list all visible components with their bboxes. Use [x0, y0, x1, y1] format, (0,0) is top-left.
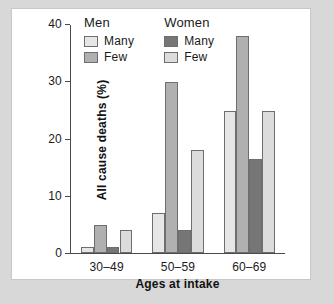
y-tick: 0: [70, 253, 71, 254]
y-tick-label: 0: [55, 246, 62, 260]
bar: [81, 247, 94, 253]
y-tick-mark: [65, 196, 70, 197]
y-axis-title: All cause deaths (%): [95, 60, 109, 220]
bar: [178, 230, 191, 253]
y-tick-mark: [65, 81, 70, 82]
bar: [152, 213, 165, 253]
y-tick-mark: [65, 253, 70, 254]
bar: [191, 150, 204, 253]
bar: [120, 230, 133, 253]
bar: [94, 225, 107, 254]
bar-group: 50–59: [142, 25, 213, 253]
bar: [249, 159, 262, 253]
bar-group: 60–69: [214, 25, 285, 253]
y-tick-label: 30: [48, 74, 62, 88]
x-tick-label: 50–59: [161, 260, 195, 274]
y-tick-mark: [65, 24, 70, 25]
x-axis-line: [70, 253, 285, 254]
bar: [165, 82, 178, 253]
bar: [262, 111, 275, 254]
y-tick-label: 10: [48, 189, 62, 203]
bar: [224, 111, 237, 254]
x-axis-title: Ages at intake: [70, 277, 285, 291]
bar: [236, 36, 249, 253]
y-tick-mark: [65, 139, 70, 140]
y-tick-label: 40: [48, 17, 62, 31]
x-tick-label: 30–49: [89, 260, 123, 274]
y-tick-label: 20: [48, 132, 62, 146]
plot-area: 010203040 30–4950–5960–69 All cause deat…: [70, 25, 285, 254]
x-tick-label: 60–69: [232, 260, 266, 274]
bar: [107, 247, 120, 253]
chart-figure: MenManyFewWomenManyFew 010203040 30–4950…: [11, 8, 311, 280]
